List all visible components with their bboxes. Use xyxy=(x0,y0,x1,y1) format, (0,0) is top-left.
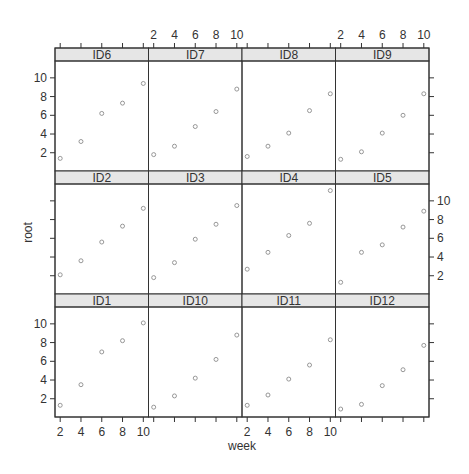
y-axis-title: root xyxy=(21,222,35,243)
panel-frame xyxy=(55,307,149,417)
data-point xyxy=(380,384,384,388)
strip-label: ID7 xyxy=(186,48,205,62)
trellis-scatter-chart: ID6ID7ID8ID9ID2ID3ID4ID5ID1ID10ID11ID122… xyxy=(0,0,469,474)
x-tick-label: 10 xyxy=(137,425,151,439)
panel-frame xyxy=(149,184,243,294)
strip-label: ID3 xyxy=(186,171,205,185)
data-point xyxy=(245,267,249,271)
strip-label: ID11 xyxy=(277,294,302,308)
x-tick-label: 8 xyxy=(306,425,313,439)
x-tick-label: 6 xyxy=(285,425,292,439)
data-point xyxy=(121,101,125,105)
panel-frame xyxy=(149,61,243,171)
x-tick-label: 8 xyxy=(400,28,407,42)
panel-frame xyxy=(149,307,243,417)
data-point xyxy=(266,393,270,397)
data-point xyxy=(152,153,156,157)
data-point xyxy=(214,357,218,361)
data-point xyxy=(287,377,291,381)
x-tick-label: 2 xyxy=(244,425,251,439)
data-point xyxy=(172,394,176,398)
data-point xyxy=(152,405,156,409)
y-tick-label: 6 xyxy=(437,231,444,245)
x-tick-label: 2 xyxy=(337,28,344,42)
panel-frame xyxy=(55,61,149,171)
data-point xyxy=(152,276,156,280)
y-tick-label: 10 xyxy=(34,317,48,331)
data-point xyxy=(193,376,197,380)
data-point xyxy=(121,339,125,343)
data-point xyxy=(79,259,83,263)
panel-frame xyxy=(336,61,430,171)
data-point xyxy=(308,109,312,113)
x-tick-label: 6 xyxy=(379,28,386,42)
strip-label: ID6 xyxy=(92,48,111,62)
y-tick-label: 2 xyxy=(40,146,47,160)
data-point xyxy=(328,189,332,193)
data-point xyxy=(100,111,104,115)
x-tick-label: 8 xyxy=(213,28,220,42)
panel-frame xyxy=(336,307,430,417)
y-tick-label: 4 xyxy=(40,373,47,387)
y-tick-label: 6 xyxy=(40,354,47,368)
data-point xyxy=(79,140,83,144)
data-point xyxy=(172,144,176,148)
strip-label: ID9 xyxy=(373,48,392,62)
panel-frame xyxy=(55,184,149,294)
data-point xyxy=(328,338,332,342)
data-point xyxy=(308,221,312,225)
data-point xyxy=(359,402,363,406)
data-point xyxy=(100,350,104,354)
panel-frame xyxy=(242,307,336,417)
data-point xyxy=(266,144,270,148)
chart-canvas: ID6ID7ID8ID9ID2ID3ID4ID5ID1ID10ID11ID122… xyxy=(0,0,469,474)
data-point xyxy=(172,261,176,265)
strip-label: ID10 xyxy=(183,294,209,308)
data-point xyxy=(266,250,270,254)
strip-label: ID2 xyxy=(92,171,111,185)
y-tick-label: 8 xyxy=(40,336,47,350)
data-point xyxy=(235,87,239,91)
data-point xyxy=(339,157,343,161)
data-point xyxy=(141,321,145,325)
data-point xyxy=(380,131,384,135)
x-tick-label: 4 xyxy=(358,28,365,42)
data-point xyxy=(422,209,426,213)
x-tick-label: 4 xyxy=(265,425,272,439)
data-point xyxy=(245,403,249,407)
data-point xyxy=(58,273,62,277)
panel-frame xyxy=(242,184,336,294)
data-point xyxy=(235,333,239,337)
strip-label: ID5 xyxy=(373,171,392,185)
data-point xyxy=(58,403,62,407)
x-tick-label: 10 xyxy=(417,28,431,42)
x-tick-label: 2 xyxy=(150,28,157,42)
data-point xyxy=(422,343,426,347)
data-point xyxy=(121,224,125,228)
data-point xyxy=(193,125,197,129)
panel-frame xyxy=(242,61,336,171)
data-point xyxy=(380,243,384,247)
data-point xyxy=(100,240,104,244)
data-point xyxy=(401,113,405,117)
x-tick-label: 10 xyxy=(324,425,338,439)
data-point xyxy=(235,204,239,208)
data-point xyxy=(141,206,145,210)
data-point xyxy=(422,92,426,96)
x-tick-label: 10 xyxy=(230,28,244,42)
y-tick-label: 4 xyxy=(40,127,47,141)
data-point xyxy=(214,110,218,114)
strip-label: ID1 xyxy=(92,294,111,308)
y-tick-label: 4 xyxy=(437,250,444,264)
data-point xyxy=(287,233,291,237)
y-tick-label: 8 xyxy=(40,90,47,104)
strip-label: ID12 xyxy=(370,294,396,308)
x-tick-label: 4 xyxy=(78,425,85,439)
y-tick-label: 8 xyxy=(437,213,444,227)
data-point xyxy=(401,368,405,372)
x-tick-label: 2 xyxy=(57,425,64,439)
data-point xyxy=(245,154,249,158)
data-point xyxy=(141,81,145,85)
data-point xyxy=(359,150,363,154)
strip-label: ID8 xyxy=(279,48,298,62)
